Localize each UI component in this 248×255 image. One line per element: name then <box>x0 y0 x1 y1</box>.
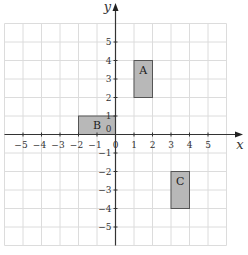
y-tick-label: −3 <box>98 185 112 195</box>
x-tick-label: 4 <box>187 140 193 150</box>
origin-label: 0 <box>106 124 112 134</box>
y-tick-label: −4 <box>98 204 112 214</box>
y-tick-label: −1 <box>98 148 111 158</box>
x-tick-label: −4 <box>33 140 47 150</box>
coordinate-grid: ABC−5−4−3−2−1012345054321−1−2−3−4−5xy <box>0 0 248 255</box>
y-tick-label: 5 <box>106 37 112 47</box>
y-tick-label: 3 <box>106 74 112 84</box>
y-tick-label: −2 <box>98 167 111 177</box>
y-axis-arrow-icon <box>113 3 119 11</box>
x-tick-label: 1 <box>131 140 137 150</box>
x-tick-label: 0 <box>113 140 119 150</box>
shape-label-c: C <box>176 175 184 188</box>
x-axis-label: x <box>236 137 244 152</box>
x-tick-label: −5 <box>14 140 28 150</box>
y-tick-label: 2 <box>106 93 112 103</box>
x-tick-label: −3 <box>51 140 65 150</box>
y-axis-label: y <box>103 0 112 14</box>
shape-label-b: B <box>93 119 101 132</box>
x-tick-label: −2 <box>70 140 83 150</box>
x-tick-label: 2 <box>150 140 156 150</box>
y-tick-label: −5 <box>98 222 112 232</box>
y-tick-label: 1 <box>106 111 112 121</box>
shape-label-a: A <box>138 64 148 77</box>
x-tick-label: 3 <box>168 140 174 150</box>
x-tick-label: 5 <box>205 140 211 150</box>
y-tick-label: 4 <box>106 56 112 66</box>
